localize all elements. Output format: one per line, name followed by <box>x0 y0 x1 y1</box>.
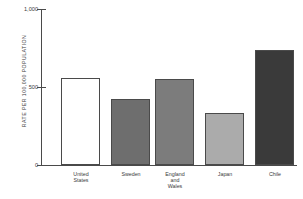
bar-england-and-wales <box>155 79 194 165</box>
y-axis-tick-labels: 1,000 500 0 <box>14 0 38 199</box>
bar-chart: RATE PER 100,000 POPULATION 1,000 500 0 … <box>0 0 303 199</box>
bar-sweden <box>111 99 150 165</box>
bar-united-states <box>61 78 100 165</box>
bar-chile <box>255 50 294 165</box>
y-tick-mark-0 <box>37 165 46 166</box>
x-axis-label-line: Chile <box>239 171 303 177</box>
y-tick-mark-1000 <box>37 9 46 10</box>
x-axis-label-line: Wales <box>139 183 211 189</box>
plot-area <box>41 9 297 166</box>
bar-japan <box>205 113 244 165</box>
y-tick-label-1000: 1,000 <box>24 6 38 12</box>
x-axis-line <box>41 165 297 166</box>
y-tick-mark-500 <box>37 87 46 88</box>
x-axis-label-line: States <box>45 177 117 183</box>
x-axis-label-chile: Chile <box>239 171 303 177</box>
